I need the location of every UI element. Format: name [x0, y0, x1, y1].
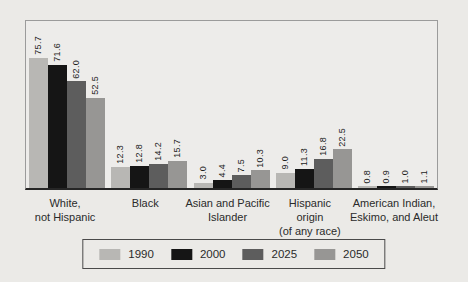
bar-col: 16.8	[314, 137, 333, 188]
bar-col: 4.4	[213, 164, 232, 188]
legend-item-1990: 1990	[99, 248, 154, 260]
bar-col: 52.5	[86, 76, 105, 188]
legend-label: 2050	[343, 248, 369, 260]
bar-value-label: 52.5	[91, 76, 100, 95]
bar-2025	[149, 164, 168, 188]
bar-2025	[67, 81, 86, 188]
bar-1990	[358, 186, 377, 188]
bar-value-label: 1.0	[401, 170, 410, 183]
bar-group-1: 12.312.814.215.7	[108, 139, 190, 188]
bar-value-label: 71.6	[53, 43, 62, 62]
bar-value-label: 0.9	[382, 170, 391, 183]
category-label: White, not Hispanic	[35, 197, 96, 238]
bar-value-label: 12.8	[135, 144, 144, 163]
category-label: Asian and Pacific Islander	[185, 197, 269, 238]
bar-col: 62.0	[67, 60, 86, 188]
bar-col: 22.5	[333, 128, 352, 188]
bar-2050	[251, 170, 270, 188]
category-label-cell-2: Asian and Pacific Islander	[185, 197, 269, 238]
grouped-bar-chart: 75.771.662.052.512.312.814.215.73.04.47.…	[0, 0, 468, 282]
bar-value-label: 0.8	[363, 170, 372, 183]
bar-col: 1.0	[396, 170, 415, 188]
bar-1990	[111, 167, 130, 188]
legend-swatch-icon	[314, 249, 335, 260]
bar-value-label: 1.1	[420, 170, 429, 183]
bar-value-label: 11.3	[300, 148, 309, 166]
bar-2050	[168, 161, 187, 188]
legend-label: 1990	[128, 248, 154, 260]
bar-col: 10.3	[251, 149, 270, 188]
bar-value-label: 15.7	[173, 139, 182, 158]
legend-swatch-icon	[99, 249, 120, 260]
bar-group-2: 3.04.47.510.3	[190, 149, 272, 188]
legend: 1990200020252050	[82, 239, 385, 269]
category-label: Black	[132, 197, 159, 238]
category-label-cell-3: Hispanic origin (of any race)	[270, 197, 350, 238]
legend-item-2025: 2025	[243, 248, 298, 260]
bar-col: 12.3	[111, 145, 130, 188]
bar-value-label: 75.7	[34, 36, 43, 55]
legend-swatch-icon	[171, 249, 192, 260]
category-label: American Indian, Eskimo, and Aleut	[350, 197, 438, 238]
bar-col: 14.2	[149, 142, 168, 188]
bar-value-label: 10.3	[256, 149, 265, 168]
bar-col: 7.5	[232, 159, 251, 188]
bar-value-label: 22.5	[338, 128, 347, 147]
bar-col: 0.8	[358, 170, 377, 188]
bar-2000	[377, 186, 396, 188]
bar-col: 15.7	[168, 139, 187, 188]
bar-col: 12.8	[130, 144, 149, 188]
bar-2025	[232, 175, 251, 188]
bar-2025	[314, 159, 333, 188]
category-label-cell-1: Black	[105, 197, 185, 238]
bar-2050	[415, 186, 434, 188]
page: { "page": { "background": "#ebeae7" }, "…	[0, 0, 468, 282]
bar-value-label: 16.8	[319, 137, 328, 156]
bar-1990	[194, 183, 213, 188]
category-label-cell-0: White, not Hispanic	[25, 197, 105, 238]
bar-col: 11.3	[295, 148, 314, 188]
bar-col: 75.7	[29, 36, 48, 188]
bar-value-label: 62.0	[72, 60, 81, 79]
legend-swatch-icon	[243, 249, 264, 260]
legend-label: 2000	[200, 248, 226, 260]
bar-col: 3.0	[194, 166, 213, 188]
bar-group-4: 0.80.91.01.1	[355, 170, 437, 188]
bar-col: 71.6	[48, 43, 67, 188]
legend-item-2000: 2000	[171, 248, 226, 260]
bars-container: 75.771.662.052.512.312.814.215.73.04.47.…	[26, 21, 437, 188]
bar-1990	[276, 173, 295, 188]
bar-2000	[48, 65, 67, 188]
bar-col: 1.1	[415, 170, 434, 188]
category-label-cell-4: American Indian, Eskimo, and Aleut	[350, 197, 438, 238]
bar-col: 0.9	[377, 170, 396, 188]
plot-area: 75.771.662.052.512.312.814.215.73.04.47.…	[25, 20, 438, 190]
bar-value-label: 9.0	[281, 156, 290, 169]
bar-col: 9.0	[276, 156, 295, 188]
bar-2000	[130, 166, 149, 188]
bar-2000	[295, 169, 314, 188]
bar-2025	[396, 186, 415, 188]
legend-item-2050: 2050	[314, 248, 369, 260]
bar-value-label: 7.5	[237, 159, 246, 172]
bar-value-label: 4.4	[218, 164, 227, 177]
bar-value-label: 3.0	[199, 166, 208, 179]
bar-value-label: 14.2	[154, 142, 163, 161]
category-label: Hispanic origin (of any race)	[279, 197, 341, 238]
legend-label: 2025	[272, 248, 298, 260]
bar-group-0: 75.771.662.052.5	[26, 36, 108, 188]
category-axis-labels: White, not HispanicBlackAsian and Pacifi…	[25, 197, 438, 238]
bar-2050	[86, 98, 105, 188]
bar-group-3: 9.011.316.822.5	[273, 128, 355, 188]
bar-1990	[29, 58, 48, 188]
bar-2050	[333, 149, 352, 188]
bar-value-label: 12.3	[116, 145, 125, 164]
bar-2000	[213, 180, 232, 188]
